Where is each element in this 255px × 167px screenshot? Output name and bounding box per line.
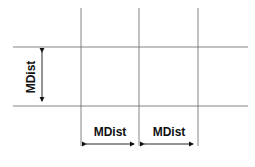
horizontal-mdist-label-left: MDist — [94, 125, 127, 139]
horizontal-mdist-label-right: MDist — [153, 125, 186, 139]
mdist-grid-diagram: MDist MDist MDist — [0, 0, 255, 167]
vertical-mdist-label: MDist — [24, 61, 38, 94]
grid-lines — [13, 8, 248, 146]
